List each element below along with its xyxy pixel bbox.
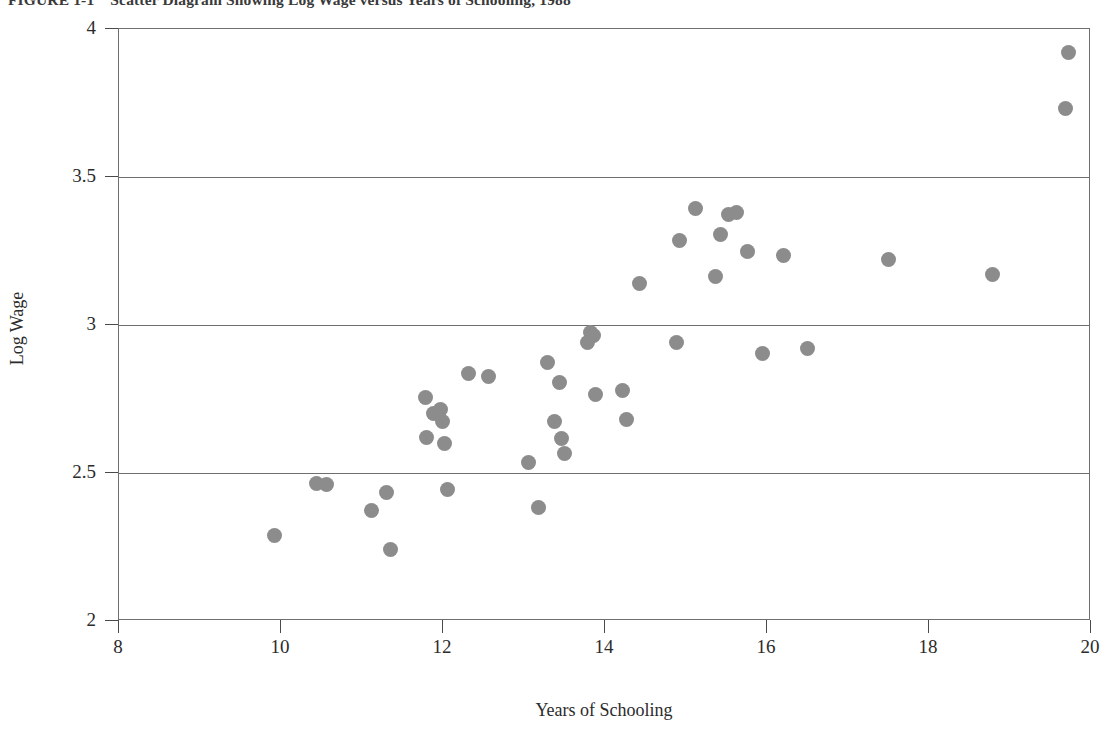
x-tick-mark (280, 620, 281, 633)
data-point (437, 436, 452, 451)
x-tick-mark (604, 620, 605, 633)
data-point (552, 375, 567, 390)
data-point (557, 446, 572, 461)
figure-caption: FIGURE 1-1Scatter Diagram Showing Log Wa… (8, 0, 1098, 11)
y-tick-label: 2.5 (72, 461, 96, 483)
y-tick-label: 2 (87, 609, 97, 631)
data-point (632, 276, 647, 291)
data-point (740, 244, 755, 259)
gridline (119, 177, 1089, 178)
x-tick-label: 12 (433, 636, 452, 658)
data-point (521, 455, 536, 470)
y-tick-label: 3 (87, 313, 97, 335)
data-point (672, 233, 687, 248)
data-point (708, 269, 723, 284)
figure-caption-text: Scatter Diagram Showing Log Wage versus … (110, 0, 571, 8)
data-point (669, 335, 684, 350)
x-tick-label: 10 (271, 636, 290, 658)
data-point (554, 431, 569, 446)
data-point (713, 227, 728, 242)
data-point (383, 542, 398, 557)
x-tick-label: 18 (919, 636, 938, 658)
data-point (440, 482, 455, 497)
data-point (615, 383, 630, 398)
x-tick-label: 16 (757, 636, 776, 658)
y-tick-label: 4 (87, 17, 97, 39)
y-axis-title: Log Wage (7, 269, 28, 389)
data-point (619, 412, 634, 427)
data-point (755, 346, 770, 361)
data-point (800, 341, 815, 356)
y-tick-label: 3.5 (72, 165, 96, 187)
y-tick-mark (105, 472, 118, 473)
data-point (419, 430, 434, 445)
data-point (1058, 101, 1073, 116)
y-tick-mark (105, 28, 118, 29)
gridline (119, 473, 1089, 474)
x-tick-label: 14 (595, 636, 614, 658)
x-tick-mark (118, 620, 119, 633)
plot-area (118, 28, 1090, 620)
gridline (119, 325, 1089, 326)
x-tick-mark (442, 620, 443, 633)
data-point (776, 248, 791, 263)
x-tick-label: 8 (113, 636, 123, 658)
data-point (379, 485, 394, 500)
data-point (985, 267, 1000, 282)
data-point (364, 503, 379, 518)
data-point (481, 369, 496, 384)
data-point (729, 205, 744, 220)
data-point (531, 500, 546, 515)
x-tick-mark (766, 620, 767, 633)
data-point (540, 355, 555, 370)
data-point (688, 201, 703, 216)
x-axis-title: Years of Schooling (118, 700, 1090, 721)
data-point (881, 252, 896, 267)
y-tick-mark (105, 620, 118, 621)
y-tick-mark (105, 176, 118, 177)
data-point (418, 390, 433, 405)
data-point (547, 414, 562, 429)
data-point (1061, 45, 1076, 60)
data-point (586, 328, 601, 343)
x-tick-label: 20 (1081, 636, 1100, 658)
x-tick-mark (928, 620, 929, 633)
data-point (435, 414, 450, 429)
data-point (588, 387, 603, 402)
data-point (267, 528, 282, 543)
data-point (319, 477, 334, 492)
figure-root: FIGURE 1-1Scatter Diagram Showing Log Wa… (0, 0, 1111, 733)
x-tick-mark (1090, 620, 1091, 633)
data-point (461, 366, 476, 381)
y-tick-mark (105, 324, 118, 325)
